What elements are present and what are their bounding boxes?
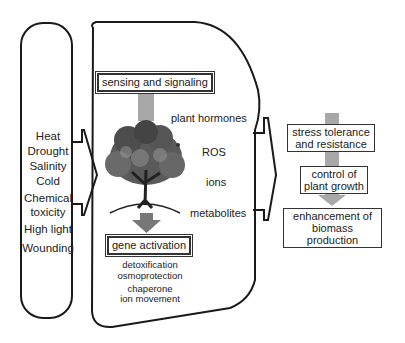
- stress-drought: Drought: [14, 144, 82, 158]
- outcome-line: and resistance: [290, 138, 372, 150]
- outcome-stress-tolerance: stress tolerance and resistance: [287, 124, 375, 152]
- arrow-sensing-down: [138, 94, 154, 121]
- outcome-control-growth: control of plant growth: [300, 166, 368, 194]
- tree-icon: [105, 120, 185, 213]
- arrow-center-to-right: [253, 118, 276, 220]
- response-osmoprotection: osmoprotection: [106, 270, 194, 281]
- signal-ros: ROS: [202, 146, 226, 158]
- response-ion-movement: ion movement: [106, 293, 194, 304]
- signal-ions: ions: [206, 176, 226, 188]
- outcome-line: biomass production: [286, 222, 379, 246]
- outcome-line: control of: [303, 168, 365, 180]
- outcome-line: plant growth: [303, 180, 365, 192]
- stress-wounding: Wounding: [14, 241, 82, 255]
- stress-high-light: High light: [14, 222, 82, 236]
- sensing-signaling-box: sensing and signaling: [97, 73, 213, 92]
- response-detoxification: detoxification: [106, 259, 194, 270]
- signal-plant-hormones: plant hormones: [171, 112, 247, 124]
- stress-cold: Cold: [14, 174, 82, 188]
- stress-salinity: Salinity: [14, 159, 82, 173]
- gene-activation-box: gene activation: [107, 236, 191, 255]
- signal-metabolites: metabolites: [190, 207, 246, 219]
- outcome-line: enhancement of: [286, 210, 379, 222]
- arrow-outcomes-head: [318, 195, 346, 206]
- arrow-to-gene-activation: [132, 213, 161, 233]
- outcome-biomass: enhancement of biomass production: [283, 208, 382, 248]
- stress-chemical-toxicity: Chemical toxicity: [14, 191, 82, 219]
- stress-heat: Heat: [14, 129, 82, 143]
- outcome-line: stress tolerance: [290, 126, 372, 138]
